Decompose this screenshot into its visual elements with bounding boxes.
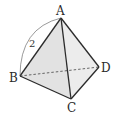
vertex-label-d: D xyxy=(101,61,111,75)
vertex-label-c: C xyxy=(67,101,76,115)
tetrahedron-diagram: 2 A B C D xyxy=(0,0,117,117)
edge-length-label: 2 xyxy=(29,38,35,49)
vertex-label-b: B xyxy=(9,71,18,85)
vertex-label-a: A xyxy=(55,4,65,18)
